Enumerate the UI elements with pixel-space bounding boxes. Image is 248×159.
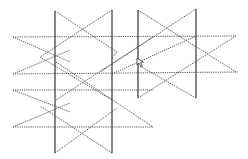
star-pattern-diagram [0, 0, 248, 159]
background [0, 0, 248, 159]
